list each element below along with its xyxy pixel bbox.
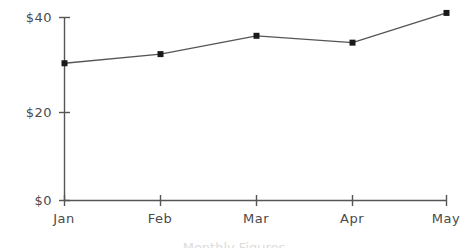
- line-chart: $40 $20 $0 Jan Feb Mar Apr May Monthly F…: [0, 0, 468, 248]
- x-tick-label-may: May: [416, 212, 468, 225]
- chart-caption-clipped: Monthly Figures: [0, 241, 468, 248]
- y-tick-label-40: $40: [8, 11, 52, 24]
- y-tick-label-20: $20: [8, 106, 52, 119]
- data-point-mar: [254, 33, 260, 39]
- x-tick-label-feb: Feb: [130, 212, 190, 225]
- x-tick-label-mar: Mar: [226, 212, 286, 225]
- y-tick-label-0: $0: [8, 194, 52, 207]
- x-tick-label-jan: Jan: [34, 212, 94, 225]
- data-point-apr: [350, 40, 356, 46]
- data-point-feb: [158, 51, 164, 57]
- data-point-jan: [62, 60, 68, 66]
- data-point-may: [444, 10, 450, 16]
- chart-caption-text: Monthly Figures: [0, 241, 468, 248]
- x-tick-label-apr: Apr: [322, 212, 382, 225]
